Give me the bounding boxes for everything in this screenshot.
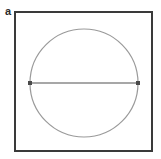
bounding-square-shape bbox=[15, 12, 152, 151]
endpoint-marker-right-icon bbox=[136, 81, 140, 85]
geometry-diagram bbox=[0, 0, 161, 159]
figure-panel: a bbox=[0, 0, 161, 159]
endpoint-marker-left-icon bbox=[28, 81, 32, 85]
